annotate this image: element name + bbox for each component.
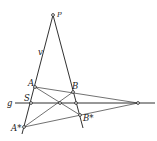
point-p	[52, 14, 55, 17]
point-b	[72, 91, 75, 94]
label-a: A	[27, 78, 34, 88]
geometry-diagram: P v A B S g B* A*	[0, 0, 157, 141]
point-center	[59, 102, 62, 105]
label-v: v	[38, 47, 43, 57]
label-b: B	[71, 81, 78, 91]
point-a-star	[23, 126, 26, 129]
point-vanishing	[137, 102, 140, 105]
line-a-v	[35, 87, 138, 103]
point-s	[30, 102, 33, 105]
label-g: g	[7, 98, 13, 108]
line-v	[22, 15, 53, 134]
label-a-star: A*	[10, 123, 22, 133]
point-b-star	[79, 114, 82, 117]
point-g-intersection	[75, 102, 78, 105]
label-s: S	[24, 93, 30, 103]
label-b-star: B*	[82, 113, 94, 123]
line-p-b	[53, 15, 83, 128]
label-p: P	[56, 11, 62, 19]
